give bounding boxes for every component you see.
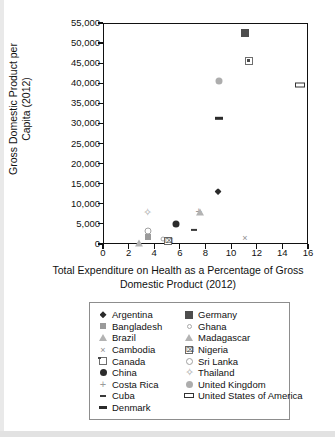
y-tick-label: 15,000 <box>38 179 100 189</box>
legend-swatch <box>183 332 195 343</box>
legend-label: Argentina <box>109 309 153 320</box>
marker-circle-open <box>144 227 151 234</box>
marker-square-x: ⌧ <box>185 346 193 354</box>
data-point <box>144 227 151 234</box>
legend-swatch: ⌧ <box>183 344 195 355</box>
marker-diamond-filled <box>215 188 222 195</box>
marker-circle-open-sm <box>187 324 192 329</box>
marker-square-x: ⌧ <box>164 237 172 245</box>
legend-swatch: × <box>97 344 109 355</box>
marker-diamond-plus: ✧ <box>185 368 194 377</box>
marker-square-dot <box>245 57 253 65</box>
legend-item: Cuba <box>97 390 183 402</box>
legend-item: Canada <box>97 355 183 367</box>
y-tick-label: 45,000 <box>38 58 100 68</box>
x-axis-tick-labels: 0246810121416 <box>0 248 335 262</box>
legend-label: United States of America <box>195 390 303 401</box>
legend-item: United States of America <box>183 390 289 402</box>
marker-triangle-open <box>99 334 107 341</box>
x-tick-mark <box>256 244 257 249</box>
data-point <box>215 188 222 195</box>
x-tick-mark <box>231 244 232 249</box>
data-point <box>215 117 223 119</box>
legend-item: Brazil <box>97 332 183 344</box>
legend-item: Bangladesh <box>97 321 183 333</box>
marker-square-gray <box>100 323 106 329</box>
legend-label: Thailand <box>195 367 234 378</box>
legend-label: Costa Rica <box>109 379 158 390</box>
legend-label: China <box>109 367 137 378</box>
marker-square-dark <box>241 29 249 37</box>
data-point: × <box>241 234 249 242</box>
legend-swatch: ✧ <box>183 367 195 378</box>
marker-circle-gray <box>216 77 223 84</box>
legend-label: Nigeria <box>195 344 228 355</box>
legend-swatch <box>97 390 109 401</box>
legend-item: ×Cambodia <box>97 344 183 356</box>
marker-dash-long <box>99 406 107 408</box>
data-point <box>245 57 253 65</box>
legend-column-2: GermanyGhanaMadagascar⌧NigeriaSri Lanka✧… <box>183 309 289 413</box>
x-tick-mark <box>128 244 129 249</box>
legend-swatch <box>97 321 109 332</box>
data-point: ✧ <box>143 208 152 217</box>
legend-label: Canada <box>109 356 145 367</box>
x-axis-title: Total Expenditure on Health as a Percent… <box>38 264 318 291</box>
marker-triangle-open <box>196 209 204 216</box>
legend-item: Madagascar <box>183 332 289 344</box>
marker-square-gray <box>145 234 151 240</box>
marker-triangle-open <box>135 239 143 246</box>
legend-swatch <box>97 332 109 343</box>
y-tick-label: 5,000 <box>38 219 100 229</box>
y-axis-title: Gross Domestic Product per Capita (2012) <box>7 34 33 184</box>
legend-item: China <box>97 367 183 379</box>
x-tick-mark <box>179 244 180 249</box>
data-point <box>172 221 179 228</box>
data-point <box>145 234 151 240</box>
legend-label: Cambodia <box>109 344 155 355</box>
marker-dash-short <box>100 395 106 397</box>
y-tick-label: 10,000 <box>38 199 100 209</box>
y-tick-label: 20,000 <box>38 159 100 169</box>
legend-item: Argentina <box>97 309 183 321</box>
data-point <box>241 29 249 37</box>
legend-item: Denmark <box>97 402 183 414</box>
y-tick-label: 40,000 <box>38 78 100 88</box>
legend-item: Germany <box>183 309 289 321</box>
legend-swatch <box>183 356 195 367</box>
marker-dash-long <box>215 117 223 119</box>
legend-swatch <box>183 390 195 401</box>
legend-swatch <box>183 321 195 332</box>
plot-area: +✧×⌧ <box>103 23 308 244</box>
marker-x: × <box>99 346 107 354</box>
marker-rect-open <box>295 83 305 88</box>
y-tick-label: 25,000 <box>38 139 100 149</box>
marker-square-dark <box>185 311 193 319</box>
marker-dash-short <box>191 229 197 231</box>
x-tick-mark <box>307 244 308 249</box>
y-axis-tick-labels: 05,00010,00015,00020,00025,00030,00035,0… <box>36 0 100 260</box>
marker-circle-open <box>186 358 193 365</box>
legend-label: Germany <box>195 309 237 320</box>
legend-item: ✧Thailand <box>183 367 289 379</box>
marker-square-dot <box>99 357 107 365</box>
legend-label: United Kingdom <box>195 379 266 390</box>
legend-item: Ghana <box>183 321 289 333</box>
marker-rect-open <box>184 393 194 398</box>
y-tick-label: 30,000 <box>38 118 100 128</box>
legend-swatch: + <box>97 379 109 390</box>
x-tick-mark <box>282 244 283 249</box>
legend-swatch <box>183 309 195 320</box>
legend-swatch <box>183 379 195 390</box>
marker-circle-filled <box>172 221 179 228</box>
marker-diamond-plus: ✧ <box>143 208 152 217</box>
marker-circle-gray <box>186 381 193 388</box>
legend-label: Denmark <box>109 402 151 413</box>
data-point <box>135 239 143 246</box>
legend-label: Cuba <box>109 390 135 401</box>
legend-swatch <box>97 367 109 378</box>
marker-diamond-filled <box>100 311 107 318</box>
data-point <box>196 209 204 216</box>
legend-label: Sri Lanka <box>195 356 238 367</box>
legend-label: Madagascar <box>195 332 250 343</box>
